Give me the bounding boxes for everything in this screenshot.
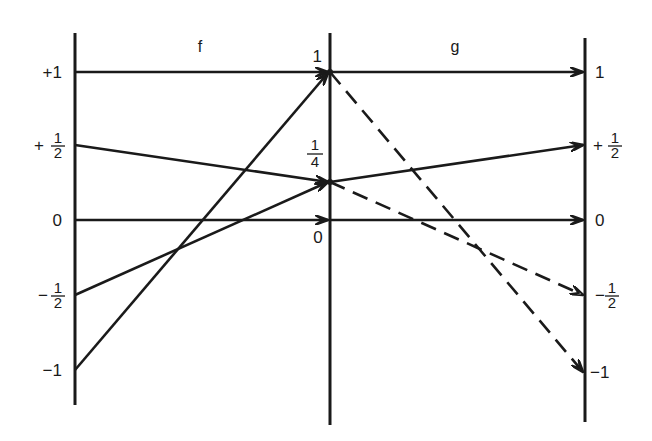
right-tick-minus-half-sign: − (595, 286, 605, 305)
left-tick-plus-half-den: 2 (54, 144, 62, 161)
f-arrow-neg-1-to-1 (75, 73, 328, 370)
left-tick-minus-half-sign: − (38, 286, 48, 305)
left-tick-0: 0 (53, 211, 62, 230)
middle-tick-quarter-num: 1 (311, 136, 319, 153)
left-tick-minus-1: −1 (43, 361, 62, 380)
g-arrow-quarter-to-half (330, 145, 583, 182)
right-tick-0: 0 (595, 211, 604, 230)
g-arrow-quarter-to-neg-half-dashed (330, 182, 583, 295)
right-tick-1: 1 (595, 63, 604, 82)
right-axis-labels: 1 + 1 2 0 − 1 2 −1 (590, 63, 622, 382)
right-tick-minus-1: −1 (590, 363, 609, 382)
f-arrow-half-to-quarter (75, 145, 328, 182)
left-tick-plus-half-sign: + (34, 136, 44, 155)
left-tick-minus-half-den: 2 (54, 294, 62, 311)
right-tick-plus-half-sign: + (593, 136, 603, 155)
function-label-g: g (451, 38, 460, 55)
right-tick-plus-half-den: 2 (611, 144, 619, 161)
middle-point-quarter (327, 179, 333, 185)
left-tick-plus-1: +1 (43, 63, 62, 82)
left-axis-labels: +1 + 1 2 0 − 1 2 −1 (34, 63, 65, 380)
g-arrows (330, 72, 583, 372)
middle-tick-1: 1 (313, 47, 322, 66)
right-tick-minus-half-den: 2 (608, 294, 616, 311)
middle-point-1 (327, 69, 333, 75)
middle-tick-0: 0 (313, 228, 322, 247)
function-label-f: f (198, 38, 203, 55)
function-mapping-diagram: f g +1 + 1 2 0 − 1 2 −1 1 1 4 (0, 0, 652, 441)
middle-axis-labels: 1 1 4 0 (307, 47, 323, 247)
g-arrow-1-to-neg-1-dashed (330, 72, 583, 372)
middle-tick-quarter-den: 4 (311, 153, 319, 170)
f-arrow-neg-half-to-quarter (75, 182, 328, 295)
f-arrows (75, 72, 328, 370)
